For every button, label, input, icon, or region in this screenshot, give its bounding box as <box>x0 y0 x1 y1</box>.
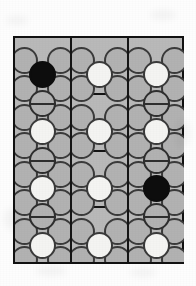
right-panel-center-cell-4-barred <box>143 147 170 174</box>
left-panel-center-cell-4-barred <box>29 147 56 174</box>
right-panel-center-cell-7-white <box>143 232 170 259</box>
middle-panel-center-cell-1-white <box>86 61 113 88</box>
scan-smudge-1 <box>6 16 28 25</box>
middle-panel <box>72 38 127 262</box>
figure-canvas <box>0 0 196 286</box>
left-panel-center-cell-5-white <box>29 175 56 202</box>
left-panel-center-cell-1-black <box>29 61 56 88</box>
left-panel <box>15 38 70 262</box>
scan-smudge-2 <box>150 10 176 20</box>
right-panel-center-cell-1-white <box>143 61 170 88</box>
right-panel-center-cell-5-black <box>143 175 170 202</box>
right-panel-center-cell-6-barred <box>143 203 170 230</box>
left-panel-center-cell-3-white <box>29 118 56 145</box>
scan-smudge-5 <box>130 268 156 277</box>
left-panel-center-cell-7-white <box>29 232 56 259</box>
right-panel <box>129 38 184 262</box>
scan-smudge-4 <box>36 266 66 276</box>
right-panel-center-cell-3-white <box>143 118 170 145</box>
left-panel-center-cell-2-barred <box>29 90 56 117</box>
right-panel-center-cell-2-barred <box>143 90 170 117</box>
middle-panel-center-cell-2-white <box>86 118 113 145</box>
middle-panel-center-cell-3-white <box>86 175 113 202</box>
left-panel-center-cell-6-barred <box>29 203 56 230</box>
middle-panel-center-cell-4-white <box>86 232 113 259</box>
circle-packing-diagram <box>13 36 184 264</box>
